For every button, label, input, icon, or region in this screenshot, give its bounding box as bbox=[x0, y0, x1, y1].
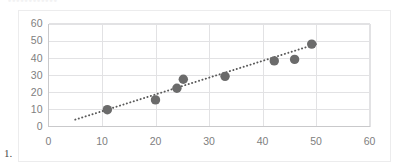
y-tick-label-0: 0 bbox=[37, 120, 43, 132]
data-point-0-3[interactable] bbox=[179, 75, 188, 84]
data-point-0-4[interactable] bbox=[220, 72, 229, 81]
data-point-0-1[interactable] bbox=[151, 95, 160, 104]
y-tick-label-60: 60 bbox=[31, 17, 43, 29]
chart-plot-area[interactable]: 0102030405060 0102030405060 bbox=[19, 11, 390, 161]
y-tick-label-30: 30 bbox=[31, 69, 43, 81]
ghost-heading-text: •••••••••••• bbox=[8, 0, 128, 6]
chart-frame[interactable]: 0102030405060 0102030405060 bbox=[18, 10, 391, 162]
x-tick-label-60: 60 bbox=[364, 135, 376, 147]
y-axis-tick-labels: 0102030405060 bbox=[31, 17, 43, 132]
x-tick-label-0: 0 bbox=[46, 135, 52, 147]
x-tick-label-20: 20 bbox=[150, 135, 162, 147]
data-point-0-2[interactable] bbox=[172, 84, 181, 93]
x-tick-label-50: 50 bbox=[310, 135, 322, 147]
screenshot-page: •••••••••••• 1. 0102030405060 0102030405… bbox=[0, 0, 395, 168]
y-tick-label-50: 50 bbox=[31, 34, 43, 46]
x-tick-label-40: 40 bbox=[257, 135, 269, 147]
x-tick-label-10: 10 bbox=[96, 135, 108, 147]
data-point-0-5[interactable] bbox=[270, 56, 279, 65]
data-point-0-7[interactable] bbox=[307, 39, 316, 48]
y-tick-label-40: 40 bbox=[31, 52, 43, 64]
data-point-0-6[interactable] bbox=[290, 55, 299, 64]
y-tick-label-10: 10 bbox=[31, 103, 43, 115]
list-marker: 1. bbox=[4, 148, 12, 159]
scatter-chart-svg: 0102030405060 0102030405060 bbox=[19, 11, 390, 161]
x-axis-tick-labels: 0102030405060 bbox=[46, 135, 376, 147]
x-tick-label-30: 30 bbox=[203, 135, 215, 147]
data-point-0-0[interactable] bbox=[103, 105, 112, 114]
y-tick-label-20: 20 bbox=[31, 86, 43, 98]
